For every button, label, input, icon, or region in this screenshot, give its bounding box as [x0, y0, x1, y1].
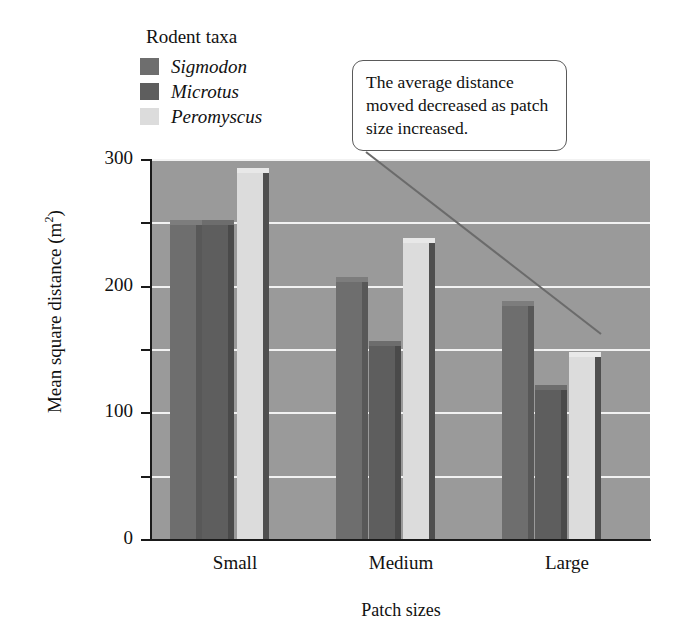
bar-large-peromyscus [569, 352, 601, 540]
x-tick-label-large: Large [497, 552, 637, 574]
legend-item-microtus: Microtus [140, 79, 370, 104]
y-tick-100 [141, 412, 150, 414]
bar-face [202, 220, 228, 539]
y-tick-300 [141, 159, 150, 161]
bar-side [528, 301, 534, 539]
bar-medium-peromyscus [403, 238, 435, 540]
bar-top [202, 220, 234, 225]
bar-small-sigmodon [170, 220, 202, 539]
bar-group-medium [318, 159, 484, 539]
chart-legend: Rodent taxa Sigmodon Microtus Peromyscus [140, 26, 370, 129]
bar-face [535, 385, 561, 540]
bar-top [535, 385, 567, 390]
bar-medium-microtus [369, 341, 401, 539]
bar-side [263, 168, 269, 539]
bar-small-peromyscus [237, 168, 269, 539]
y-tick-label-100: 100 [0, 400, 133, 422]
bar-top [237, 168, 269, 173]
legend-item-peromyscus: Peromyscus [140, 104, 370, 129]
x-tick-label-small: Small [165, 552, 305, 574]
bar-side [228, 220, 234, 539]
y-axis-title: Mean square distance (m2) [42, 162, 65, 462]
bar-top [403, 238, 435, 243]
plot-area [152, 159, 650, 539]
legend-swatch-sigmodon [140, 58, 159, 75]
bar-side [595, 352, 601, 540]
y-axis-title-close: ) [44, 210, 65, 216]
bar-top [369, 341, 401, 346]
legend-label-peromyscus: Peromyscus [171, 106, 262, 128]
bar-side [429, 238, 435, 540]
bar-side [561, 385, 567, 540]
bar-top [502, 301, 534, 306]
bar-small-microtus [202, 220, 234, 539]
x-tick-label-medium: Medium [331, 552, 471, 574]
bar-side [395, 341, 401, 539]
y-axis-title-text: Mean square distance (m [44, 223, 65, 413]
y-axis-title-exponent: 2 [42, 217, 56, 223]
y-tick-label-300: 300 [0, 147, 133, 169]
legend-label-microtus: Microtus [171, 81, 239, 103]
bar-large-microtus [535, 385, 567, 540]
bar-side [362, 277, 368, 539]
legend-swatch-microtus [140, 83, 159, 100]
bar-face [569, 352, 595, 540]
bar-group-small [152, 159, 318, 539]
bar-top [336, 277, 368, 282]
bar-face [502, 301, 528, 539]
bar-top [170, 220, 202, 225]
y-tick-0 [141, 539, 150, 541]
bar-face [369, 341, 395, 539]
y-tick-150 [141, 349, 150, 351]
bar-face [336, 277, 362, 539]
annotation-callout: The average distance moved decreased as … [352, 60, 567, 151]
bar-top [569, 352, 601, 357]
bar-face [403, 238, 429, 540]
legend-title: Rodent taxa [146, 26, 370, 48]
y-tick-200 [141, 286, 150, 288]
bar-series-container [152, 159, 650, 539]
legend-label-sigmodon: Sigmodon [171, 56, 247, 78]
y-tick-label-200: 200 [0, 274, 133, 296]
bar-group-large [484, 159, 650, 539]
x-axis-line [150, 539, 651, 541]
bar-face [170, 220, 196, 539]
bar-large-sigmodon [502, 301, 534, 539]
x-axis-title: Patch sizes [152, 600, 650, 621]
y-tick-label-0: 0 [0, 527, 133, 549]
bar-chart-figure: Rodent taxa Sigmodon Microtus Peromyscus… [0, 0, 690, 639]
bar-medium-sigmodon [336, 277, 368, 539]
y-tick-250 [141, 222, 150, 224]
legend-item-sigmodon: Sigmodon [140, 54, 370, 79]
legend-swatch-peromyscus [140, 108, 159, 125]
y-axis-line [150, 159, 152, 540]
bar-face [237, 168, 263, 539]
y-tick-50 [141, 476, 150, 478]
